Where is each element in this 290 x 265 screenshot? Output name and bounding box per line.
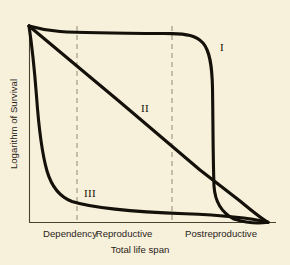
curve-label-II: II: [141, 102, 149, 114]
survivorship-curve-figure: I II III Dependency Reproductive Postrep…: [0, 0, 290, 265]
curve-label-I: I: [220, 41, 224, 53]
y-axis-title: Logarithm of Survival: [8, 79, 19, 169]
curve-label-III: III: [84, 187, 96, 199]
x-category-label-reproductive: Reproductive: [96, 228, 153, 239]
x-category-label-dependency: Dependency: [43, 228, 97, 239]
x-axis-title: Total life span: [111, 244, 170, 255]
x-category-label-postreproductive: Postreproductive: [185, 228, 257, 239]
